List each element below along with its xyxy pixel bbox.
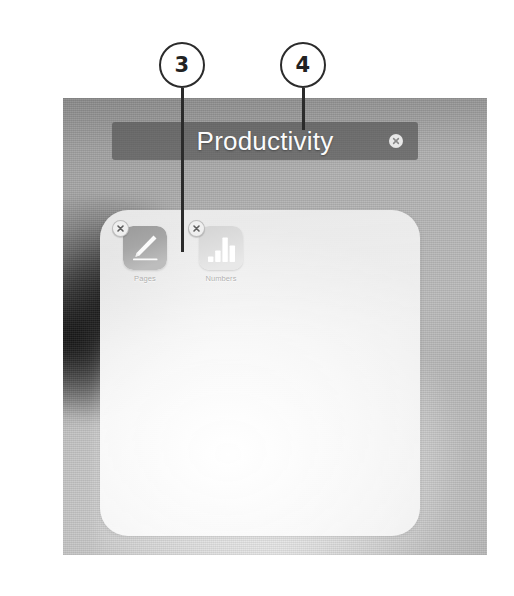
delete-badge-numbers[interactable] bbox=[188, 220, 205, 237]
app-label-pages: Pages bbox=[134, 274, 156, 283]
device-screenshot-plate: Productivity bbox=[63, 98, 487, 555]
folder-content-panel: Pages bbox=[100, 210, 420, 536]
pages-app-icon[interactable] bbox=[123, 226, 167, 270]
callout-3: 3 bbox=[159, 42, 205, 88]
folder-name-value: Productivity bbox=[197, 126, 334, 157]
delete-badge-pages[interactable] bbox=[112, 220, 129, 237]
callout-3-leader-line bbox=[181, 88, 184, 252]
clear-folder-name-button[interactable] bbox=[389, 134, 403, 148]
folder-name-field[interactable]: Productivity bbox=[112, 122, 418, 160]
app-item-pages[interactable]: Pages bbox=[118, 226, 172, 283]
callout-4: 4 bbox=[280, 42, 326, 88]
callout-3-number: 3 bbox=[175, 55, 190, 76]
numbers-app-icon[interactable] bbox=[199, 226, 243, 270]
app-item-numbers[interactable]: Numbers bbox=[194, 226, 248, 283]
callout-4-leader-line bbox=[302, 88, 305, 130]
callout-4-number: 4 bbox=[296, 55, 311, 76]
app-label-numbers: Numbers bbox=[205, 274, 236, 283]
